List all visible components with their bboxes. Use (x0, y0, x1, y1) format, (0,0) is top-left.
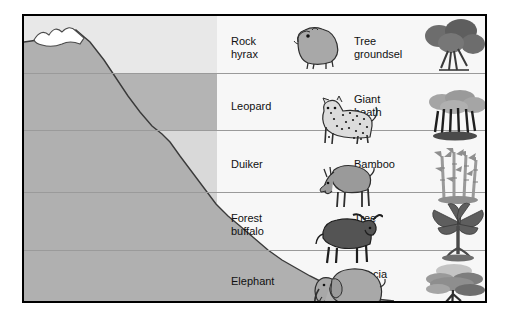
animal-label-alpine-line1: Rock (231, 35, 256, 47)
zone-label-bamboo: Bamboo (2,275 m) (38, 154, 86, 180)
zone-elevation-alpine: (3,650 m) (38, 53, 86, 66)
zone-elevation-rain-forest: (1,650 m) (38, 225, 92, 238)
duiker-icon (312, 150, 378, 208)
zone-label-savanna: Savanna (38, 268, 82, 281)
animal-label-bamboo: Duiker (231, 158, 263, 171)
animal-label-savanna: Elephant (231, 275, 274, 288)
animal-label-savanna-line1: Elephant (231, 275, 274, 287)
plant-label-alpine-line1: Tree (354, 35, 376, 47)
zone-elevation-bamboo: (2,275 m) (38, 167, 86, 180)
animal-label-heath-line1: Leopard (231, 100, 271, 112)
row-divider-1 (24, 73, 485, 74)
animal-label-alpine: Rock hyrax (231, 35, 258, 61)
tree-fern-icon (428, 202, 487, 262)
row-divider-2 (24, 130, 485, 131)
zone-label-alpine: Alpine (3,650 m) (38, 40, 86, 66)
animal-label-alpine-line2: hyrax (231, 48, 258, 60)
animal-label-bamboo-line1: Duiker (231, 158, 263, 170)
giant-heath-icon (422, 89, 487, 145)
zone-label-rain-forest: Rain forest (1,650 m) (38, 212, 92, 238)
acacia-tree-icon (422, 260, 487, 303)
tree-groundsel-icon (421, 18, 485, 72)
forest-buffalo-icon (309, 206, 383, 264)
bamboo-icon (428, 146, 487, 206)
zone-name-rain-forest: Rain forest (38, 212, 92, 225)
zone-name-alpine: Alpine (38, 40, 86, 53)
row-divider-4 (24, 250, 485, 251)
zone-elevation-heath: (3,080 m) (38, 107, 86, 120)
plant-label-alpine: Tree groundsel (354, 35, 402, 61)
rock-hyrax-icon (286, 20, 344, 70)
zone-name-savanna: Savanna (38, 268, 82, 281)
elephant-icon (306, 259, 388, 303)
zone-name-heath: Heath (38, 94, 86, 107)
animal-label-rain-forest-line1: Forest (231, 212, 262, 224)
plant-label-alpine-line2: groundsel (354, 48, 402, 60)
diagram-frame: Alpine (3,650 m) Heath (3,080 m) Bamboo … (22, 14, 487, 303)
zone-label-heath: Heath (3,080 m) (38, 94, 86, 120)
row-divider-3 (24, 192, 485, 193)
animal-label-heath: Leopard (231, 100, 271, 113)
animal-label-rain-forest: Forest buffalo (231, 212, 264, 238)
zone-name-bamboo: Bamboo (38, 154, 86, 167)
diagram-canvas: Alpine (3,650 m) Heath (3,080 m) Bamboo … (0, 0, 507, 320)
animal-label-rain-forest-line2: buffalo (231, 225, 264, 237)
leopard-icon (310, 93, 380, 145)
